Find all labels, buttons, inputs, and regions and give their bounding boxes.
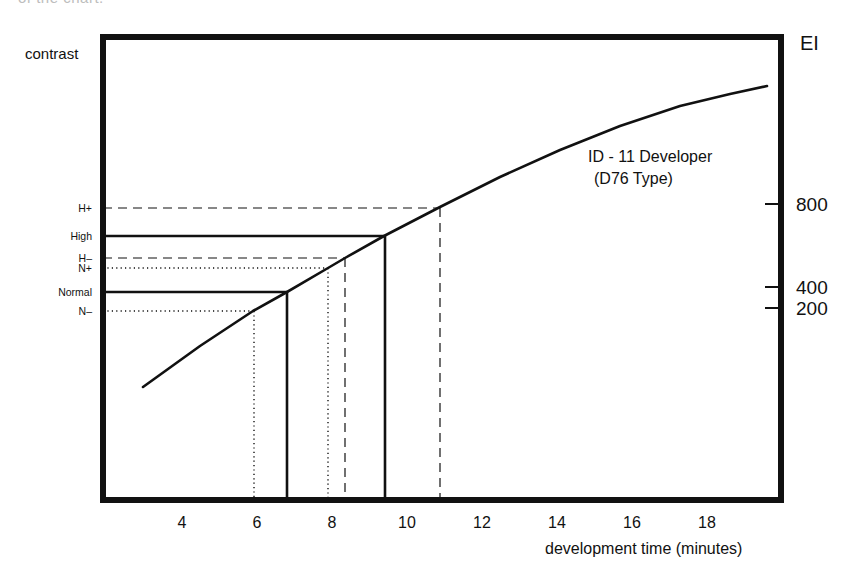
- x-tick-label-7: 18: [698, 514, 716, 531]
- contrast-axis-labels: H+HighH–N+NormalN–: [58, 202, 92, 317]
- ei-axis-ticks: 800400200: [765, 194, 828, 319]
- chart: 800400200 4681012141618 H+HighH–N+Normal…: [0, 0, 847, 582]
- ei-tick-label-0: 800: [796, 194, 828, 215]
- contrast-label-4: Normal: [58, 286, 92, 298]
- x-axis-ticks: 4681012141618: [178, 514, 716, 531]
- series-annotation-line1: ID - 11 Developer: [588, 148, 713, 165]
- x-tick-label-0: 4: [178, 514, 187, 531]
- x-axis-label: development time (minutes): [545, 540, 742, 557]
- x-tick-label-1: 6: [253, 514, 262, 531]
- x-tick-label-6: 16: [623, 514, 641, 531]
- contrast-label-3: N+: [78, 262, 92, 274]
- contrast-label-5: N–: [79, 305, 93, 317]
- x-tick-label-3: 10: [398, 514, 416, 531]
- ei-tick-label-1: 400: [796, 277, 828, 298]
- x-tick-label-5: 14: [548, 514, 566, 531]
- contrast-guide-lines: [103, 208, 440, 500]
- y-axis-left-label: contrast: [25, 45, 79, 62]
- x-tick-label-2: 8: [328, 514, 337, 531]
- series-annotation-line2: (D76 Type): [594, 170, 673, 187]
- contrast-label-0: H+: [78, 202, 92, 214]
- y-axis-right-label: EI: [800, 32, 819, 54]
- contrast-label-1: High: [70, 230, 92, 242]
- x-tick-label-4: 12: [473, 514, 491, 531]
- ei-tick-label-2: 200: [796, 298, 828, 319]
